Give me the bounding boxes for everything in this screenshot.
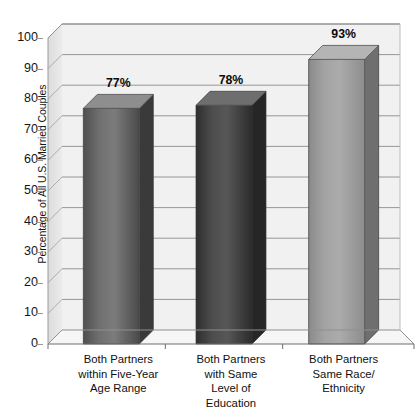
- category-label-line: within Five-Year: [62, 367, 175, 382]
- bar-side-face: [139, 94, 153, 344]
- bar-value-label: 77%: [73, 76, 163, 90]
- category-label-line: Level of: [175, 381, 288, 396]
- category-label-line: Education: [175, 396, 288, 410]
- bar-value-label: 93%: [299, 27, 389, 41]
- bar-front-face: [196, 105, 252, 344]
- category-label-line: Same Race/: [287, 367, 400, 382]
- bar-value-label: 78%: [186, 73, 276, 87]
- x-axis-category-label: Both PartnersSame Race/Ethnicity: [287, 352, 400, 396]
- category-label-line: with Same: [175, 367, 288, 382]
- category-label-line: Ethnicity: [287, 381, 400, 396]
- bar-side-face: [252, 91, 266, 344]
- category-label-line: Both Partners: [175, 352, 288, 367]
- bar-front-face: [309, 59, 365, 344]
- bar-side-face: [365, 45, 379, 344]
- bar-chart: Percentage of All U.S. Married Couples 0…: [0, 0, 420, 410]
- category-label-line: Both Partners: [62, 352, 175, 367]
- x-axis-category-labels: Both Partnerswithin Five-YearAge RangeBo…: [0, 344, 420, 410]
- bar-front-face: [83, 108, 139, 344]
- category-label-line: Age Range: [62, 381, 175, 396]
- x-axis-category-label: Both Partnerswithin Five-YearAge Range: [62, 352, 175, 396]
- category-label-line: Both Partners: [287, 352, 400, 367]
- x-axis-category-label: Both Partnerswith SameLevel ofEducation: [175, 352, 288, 410]
